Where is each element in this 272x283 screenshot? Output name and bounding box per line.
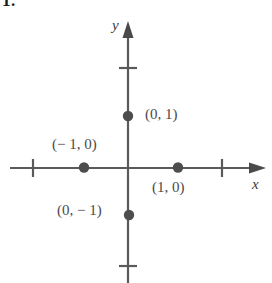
data-point-1-0 (173, 162, 183, 172)
data-point-0-neg1 (124, 210, 134, 220)
x-axis-label: x (252, 177, 259, 192)
x-axis-arrowhead (249, 163, 266, 174)
data-point-neg1-0 (79, 162, 89, 172)
y-axis-arrowhead (123, 21, 134, 38)
data-point-0-1 (123, 111, 133, 121)
y-axis-label: y (112, 18, 119, 33)
point-label-0-neg1: (0, − 1) (57, 203, 102, 218)
point-label-neg1-0: (− 1, 0) (52, 137, 97, 152)
point-label-0-1: (0, 1) (145, 107, 178, 122)
coordinate-plane-graph (0, 0, 272, 283)
point-label-1-0: (1, 0) (152, 180, 185, 195)
figure-page: 1. y x (0, 1) (− 1, 0) (1, 0) (0, − 1) (0, 0, 272, 283)
